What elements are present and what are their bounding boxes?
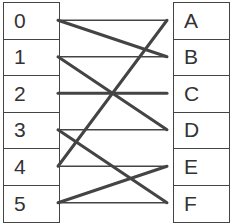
connection-lines <box>0 0 233 223</box>
connection-0-B <box>58 20 167 57</box>
connection-5-E <box>58 166 167 203</box>
